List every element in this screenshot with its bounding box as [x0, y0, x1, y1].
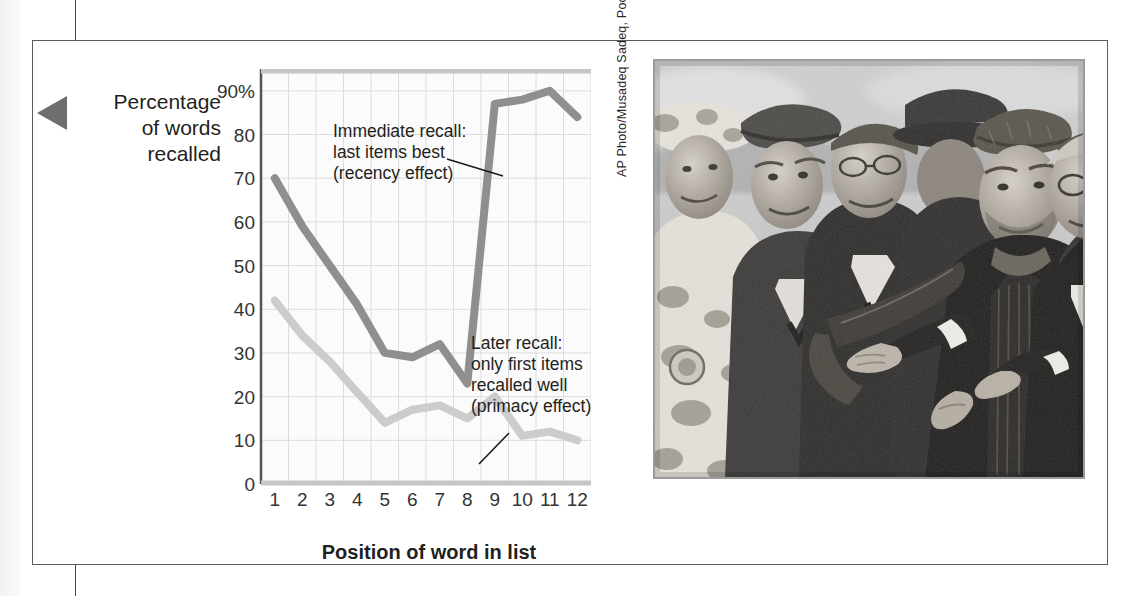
- immediate-recall-annotation: Immediate recall: last items best (recen…: [333, 121, 466, 184]
- y-axis-tick-label: 50: [195, 256, 255, 275]
- serial-position-chart: Percentage of words recalled 90%80706050…: [33, 41, 673, 566]
- x-axis-tick-label: 12: [560, 489, 594, 511]
- photo-credit: AP Photo/Musadeq Sadeq, Pool: [615, 0, 629, 177]
- later-recall-annotation: Later recall: only first items recalled …: [471, 333, 591, 417]
- photo-image: [655, 61, 1083, 477]
- y-axis-title-line-2: of words: [41, 115, 221, 141]
- figure-box: Percentage of words recalled 90%80706050…: [32, 40, 1108, 565]
- y-axis-tick-label: 40: [195, 300, 255, 319]
- y-axis-tick-label: 60: [195, 212, 255, 231]
- y-axis-title-line-3: recalled: [41, 141, 221, 167]
- y-axis-tick-label: 10: [195, 431, 255, 450]
- y-axis-tick-label: 30: [195, 343, 255, 362]
- y-axis-tick-label: 80: [195, 125, 255, 144]
- y-axis-tick-label: 20: [195, 387, 255, 406]
- y-axis-title-line-1: Percentage: [41, 89, 221, 115]
- page-gutter: [0, 0, 20, 596]
- news-photograph: [653, 59, 1085, 479]
- photo-block: AP Photo/Musadeq Sadeq, Pool: [621, 59, 1091, 499]
- y-axis-tick-label: 70: [195, 169, 255, 188]
- y-axis-tick-label: 0: [195, 475, 255, 494]
- y-axis-tick-label: 90%: [195, 81, 255, 100]
- y-axis-title: Percentage of words recalled: [41, 89, 221, 167]
- x-axis-title: Position of word in list: [229, 541, 629, 564]
